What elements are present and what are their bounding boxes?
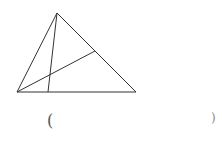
answer-close-paren: ) xyxy=(211,112,216,124)
cevian-ad xyxy=(48,13,57,92)
answer-open-paren: ( xyxy=(47,113,53,129)
cevian-be xyxy=(17,51,95,92)
side-ab xyxy=(17,13,57,92)
side-ac xyxy=(57,13,136,92)
triangle-diagram xyxy=(0,0,217,147)
